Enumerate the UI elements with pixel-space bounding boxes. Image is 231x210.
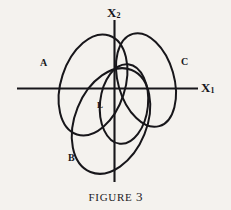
curve-c-label: C <box>181 57 188 67</box>
x2-axis-label: X2 <box>107 6 121 20</box>
curve-b-label: B <box>68 153 75 163</box>
x1-axis-label: X1 <box>201 81 215 95</box>
curve-l-label: L <box>97 101 103 110</box>
figure-caption-prefix: FIGURE <box>89 191 133 203</box>
x2-axis-label-text: X <box>107 5 116 20</box>
x1-axis-label-subscript: 1 <box>211 86 215 95</box>
x2-axis-label-subscript: 2 <box>117 11 121 20</box>
axis-group <box>17 20 198 182</box>
curve-a-label: A <box>40 58 47 68</box>
figure-drawing-canvas <box>0 0 231 210</box>
curve-b-ellipse <box>57 57 165 186</box>
figure-caption-number: 3 <box>136 189 143 204</box>
figure-caption: FIGURE 3 <box>0 189 231 205</box>
figure-3-container: X2 X1 A C B L FIGURE 3 <box>0 0 231 210</box>
x1-axis-label-text: X <box>201 80 210 95</box>
curve-a-ellipse <box>46 26 139 145</box>
